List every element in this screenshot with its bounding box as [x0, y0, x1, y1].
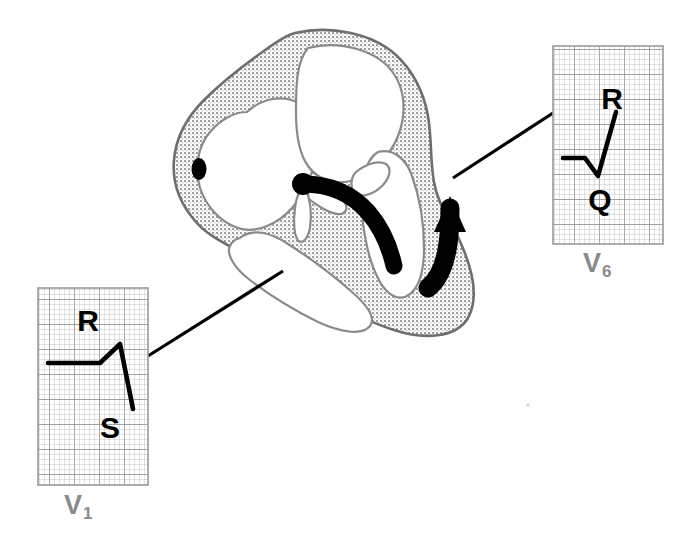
- lead-label-v1-letter: V: [64, 490, 82, 520]
- heart-cross-section: [174, 30, 474, 336]
- ecg-panel-v6: R Q: [553, 46, 663, 244]
- black-oval-marker: [192, 158, 207, 180]
- ecg-panel-v1: R S: [38, 288, 148, 485]
- lead-label-v1: V1: [64, 492, 91, 519]
- wave-label-v6-q: Q: [588, 183, 611, 216]
- page-speck: [526, 403, 529, 406]
- illustration-layer: R S R Q: [0, 0, 689, 558]
- leader-line-v6: [453, 113, 553, 178]
- leader-line-v1: [148, 271, 283, 356]
- wave-label-v6-r: R: [601, 82, 623, 115]
- figure-canvas: R S R Q V1 V6: [0, 0, 689, 558]
- lead-label-v1-subscript: 1: [83, 504, 92, 523]
- wave-label-v1-s: S: [100, 411, 120, 444]
- lead-label-v6-letter: V: [583, 248, 601, 278]
- lead-label-v6: V6: [583, 250, 610, 277]
- wave-label-v1-r: R: [77, 304, 99, 337]
- lead-label-v6-subscript: 6: [602, 262, 611, 281]
